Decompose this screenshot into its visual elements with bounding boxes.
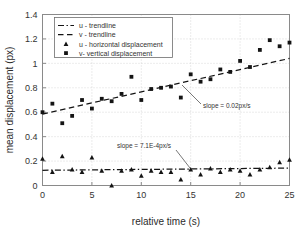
data-point-square: [139, 98, 143, 102]
x-tick-label: 10: [136, 190, 146, 200]
y-tick-label: 0.2: [25, 156, 38, 166]
data-point-square: [110, 99, 114, 103]
x-tick-label: 5: [89, 190, 94, 200]
data-point-square: [238, 59, 242, 63]
y-tick-label: 0.6: [25, 107, 38, 117]
data-point-square: [169, 85, 173, 89]
data-point-square: [90, 107, 94, 111]
x-tick-label: 25: [284, 190, 294, 200]
data-point-square: [120, 92, 124, 96]
data-point-square: [288, 41, 292, 45]
y-tick-label: 0.8: [25, 83, 38, 93]
chart-figure: 0510152025 00.20.40.60.811.21.4 slope = …: [0, 0, 305, 235]
data-point-square: [149, 87, 153, 91]
x-tick-label: 20: [235, 190, 245, 200]
y-axis-label: mean displacement (px): [4, 47, 15, 154]
data-point-square: [258, 48, 262, 52]
data-point-square: [209, 77, 213, 81]
legend-item-label: v - trendline: [79, 31, 116, 38]
chart-legend: u - trendlinev - trendlineu - horizontal…: [55, 18, 173, 58]
data-point-square: [41, 110, 45, 114]
data-point-square: [278, 44, 282, 48]
y-tick-label: 1: [32, 59, 37, 69]
legend-square-swatch: [64, 51, 68, 55]
legend-item: u - horizontal displacement: [64, 41, 163, 49]
data-point-square: [199, 80, 203, 84]
data-point-square: [268, 38, 272, 42]
data-point-square: [130, 75, 134, 79]
data-point-square: [159, 86, 163, 90]
data-point-square: [80, 98, 84, 102]
y-tick-label: 0.4: [25, 132, 38, 142]
data-point-square: [248, 65, 252, 69]
data-point-square: [50, 102, 54, 106]
annotation-label: slope = 0.02px/s: [203, 102, 251, 110]
data-point-square: [60, 121, 64, 125]
y-tick-label: 1.4: [25, 10, 38, 20]
x-tick-label: 15: [186, 190, 196, 200]
data-point-square: [70, 114, 74, 118]
y-tick-label: 0: [32, 181, 37, 191]
y-tick-label: 1.2: [25, 34, 38, 44]
legend-item-label: v- vertical displacement: [79, 50, 152, 58]
data-point-square: [218, 68, 222, 72]
legend-item-label: u - trendline: [79, 22, 116, 29]
data-point-square: [189, 72, 193, 76]
data-point-square: [228, 70, 232, 74]
data-point-square: [179, 96, 183, 100]
data-point-square: [100, 97, 104, 101]
x-tick-label: 0: [40, 190, 45, 200]
legend-item-label: u - horizontal displacement: [79, 41, 163, 49]
annotation-label: slope = 7.1E-4px/s: [117, 142, 172, 150]
scatter-chart: 0510152025 00.20.40.60.811.21.4 slope = …: [0, 0, 305, 235]
x-axis-label: relative time (s): [132, 216, 200, 227]
